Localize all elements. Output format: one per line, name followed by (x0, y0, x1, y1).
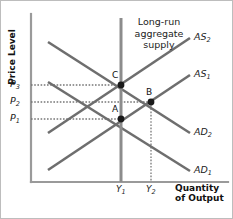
curve-as1 (48, 75, 190, 170)
point-dot-a (118, 116, 125, 123)
curve-label-as1: AS1 (194, 68, 211, 79)
curve-label-ad2: AD2 (194, 126, 212, 137)
point-label-b: B (146, 87, 152, 97)
y-tick-p1: P1 (10, 112, 20, 123)
x-axis-title: Quantity of Output (175, 183, 233, 203)
lras-annotation-line2: aggregate (135, 28, 184, 39)
curve-label-as2: AS2 (194, 31, 211, 42)
point-dot-b (148, 99, 155, 106)
curve-label-ad1: AD1 (194, 164, 212, 175)
point-dot-c (118, 82, 125, 89)
x-tick-y1: Y1 (116, 184, 126, 194)
point-label-c: C (112, 70, 118, 80)
ad-as-diagram: Price Level Quantity of Output Long-run … (0, 0, 233, 219)
y-tick-p2: P2 (10, 95, 20, 106)
lras-annotation-line1: Long-run (138, 16, 180, 27)
curve-lines (48, 38, 190, 171)
point-label-a: A (112, 104, 118, 114)
lras-annotation: Long-run aggregate supply (128, 16, 190, 51)
x-tick-y2: Y2 (146, 184, 156, 194)
x-axis-title-line1: Quantity (175, 183, 219, 193)
y-tick-p3: P3 (10, 78, 20, 89)
x-axis-title-line2: of Output (175, 193, 224, 203)
lras-annotation-line3: supply (143, 39, 174, 50)
curve-ad1 (48, 82, 190, 171)
